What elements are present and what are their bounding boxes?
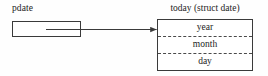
pointer-variable-label: pdate	[12, 3, 33, 13]
pointer-struct-diagram: pdate today (struct date) year month day	[0, 0, 268, 76]
struct-field-month-label: month	[193, 40, 217, 50]
struct-title: today (struct date)	[157, 3, 253, 13]
struct-box: year month day	[157, 19, 253, 71]
struct-field-year: year	[158, 20, 252, 36]
struct-field-day-label: day	[198, 57, 212, 67]
struct-field-month: month	[158, 36, 252, 53]
struct-field-day: day	[158, 53, 252, 70]
pointer-variable-box	[12, 21, 81, 37]
struct-field-year-label: year	[197, 23, 213, 33]
